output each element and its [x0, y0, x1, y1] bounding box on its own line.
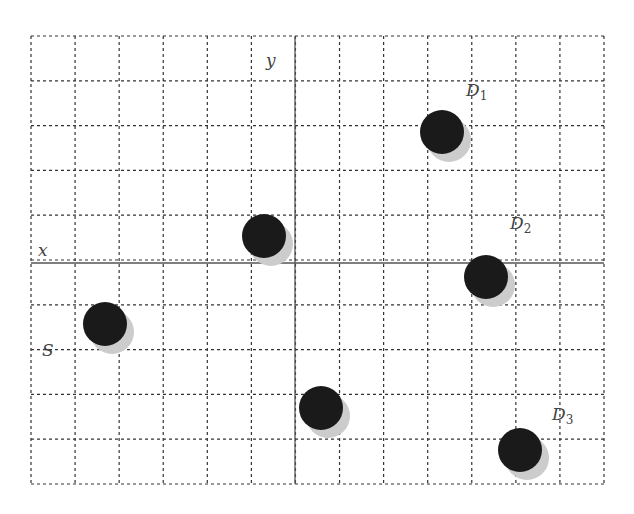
point-d3 — [498, 428, 542, 472]
point-p0 — [242, 214, 286, 258]
grid-diagram — [0, 0, 634, 514]
point-d1 — [420, 110, 464, 154]
label-d3: D3 — [552, 406, 573, 426]
label-d1: D1 — [466, 82, 487, 102]
points-layer — [83, 110, 549, 480]
label-s: S — [42, 342, 54, 359]
point-p4 — [299, 386, 343, 430]
diagram-canvas: y x D1D2SD3 — [0, 0, 634, 514]
label-d2: D2 — [510, 215, 531, 235]
point-d2 — [464, 255, 508, 299]
point-s — [83, 302, 127, 346]
y-axis-label: y — [266, 52, 276, 69]
x-axis-label: x — [38, 242, 48, 259]
